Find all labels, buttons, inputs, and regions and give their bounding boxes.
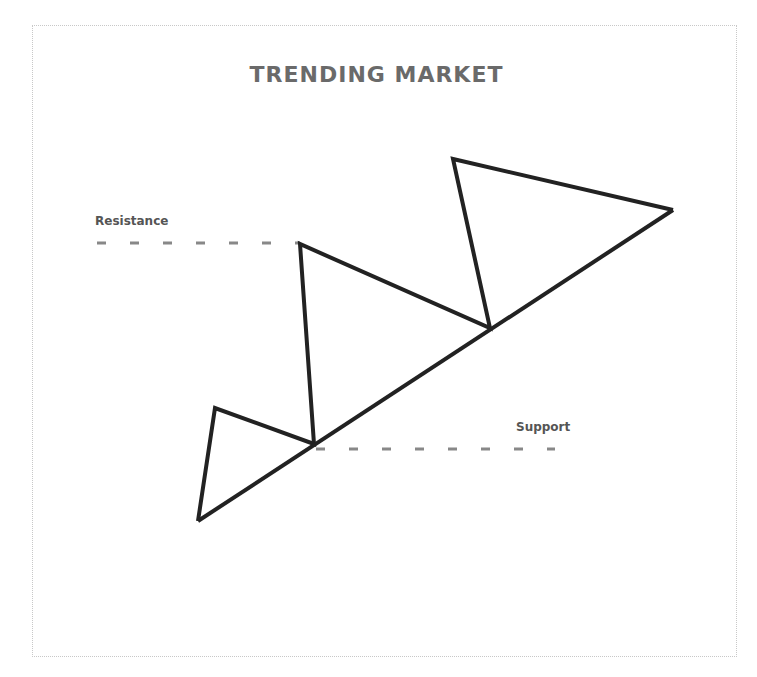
trend-diagram	[0, 0, 757, 677]
trend-line	[198, 210, 673, 521]
price-path	[198, 159, 673, 521]
